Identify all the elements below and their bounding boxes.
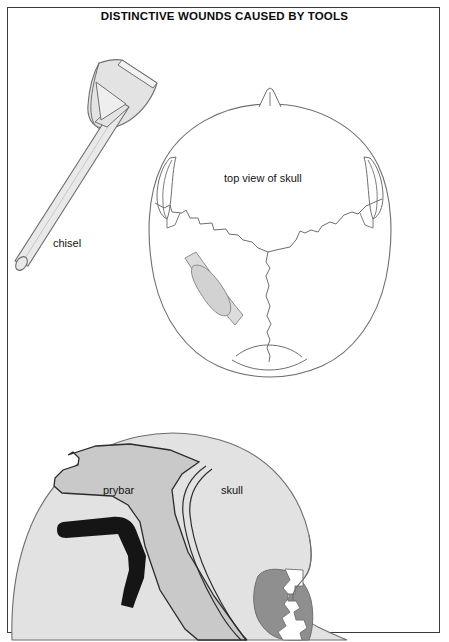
skull-top-view [149, 88, 391, 377]
illustration-canvas [0, 0, 449, 642]
label-chisel: chisel [53, 237, 81, 249]
skull-profile-view [12, 433, 347, 640]
figure-root: DISTINCTIVE WOUNDS CAUSED BY TOOLS [0, 0, 449, 642]
label-skull: skull [221, 484, 243, 496]
label-top-view-of-skull: top view of skull [224, 172, 302, 184]
label-prybar: prybar [103, 484, 134, 496]
figure-title: DISTINCTIVE WOUNDS CAUSED BY TOOLS [0, 10, 449, 22]
chisel-tool [13, 60, 157, 273]
skull-top-outline [149, 104, 391, 377]
